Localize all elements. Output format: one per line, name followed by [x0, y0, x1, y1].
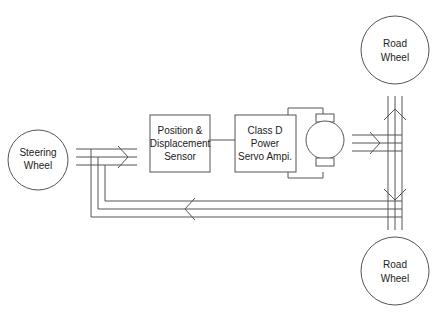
- amp-label-1: Class D: [247, 125, 282, 136]
- sensor-label-3: Sensor: [164, 151, 196, 162]
- amp-label-2: Power: [251, 138, 280, 149]
- road-wheel-bottom-node: Road Wheel: [361, 237, 429, 305]
- motor-bottom-terminal: [316, 158, 334, 166]
- road-wheel-bottom-label-1: Road: [383, 259, 407, 270]
- sensor-label-2: Displacement: [150, 138, 211, 149]
- road-wheel-bus: [384, 96, 406, 230]
- amp-label-3: Servo Ampi.: [238, 151, 292, 162]
- steering-system-diagram: Steering Wheel Position & Displacement S…: [0, 0, 446, 322]
- steering-wheel-label-2: Wheel: [24, 160, 52, 171]
- class-d-servo-amplifier-node: Class D Power Servo Ampi.: [235, 115, 296, 172]
- position-displacement-sensor-node: Position & Displacement Sensor: [150, 115, 211, 172]
- steering-output-lines: [76, 146, 137, 168]
- motor-icon: [306, 121, 344, 159]
- road-wheel-top-node: Road Wheel: [361, 16, 429, 84]
- steering-wheel-node: Steering Wheel: [8, 130, 68, 190]
- road-wheel-bottom-label-2: Wheel: [381, 273, 409, 284]
- sensor-label-1: Position &: [157, 125, 202, 136]
- road-wheel-top-label-2: Wheel: [381, 52, 409, 63]
- road-wheel-top-label-1: Road: [383, 38, 407, 49]
- steering-wheel-label-1: Steering: [19, 147, 56, 158]
- motor-node: [306, 114, 344, 166]
